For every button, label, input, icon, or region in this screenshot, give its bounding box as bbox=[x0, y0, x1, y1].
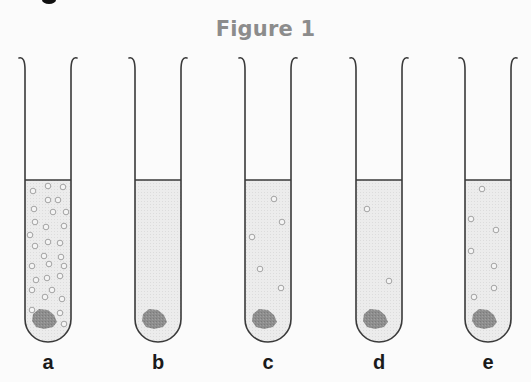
gas-bubble bbox=[57, 240, 63, 246]
gas-bubble bbox=[45, 183, 51, 189]
gas-bubble bbox=[27, 232, 33, 238]
gas-bubble bbox=[29, 287, 35, 293]
gas-bubble bbox=[61, 321, 67, 327]
gas-bubble bbox=[43, 224, 49, 230]
gas-bubble bbox=[491, 285, 497, 291]
gas-bubble bbox=[61, 263, 67, 269]
tube-label: b bbox=[152, 351, 164, 373]
gas-bubble bbox=[30, 188, 36, 194]
test-tube-b: b bbox=[129, 58, 187, 373]
gas-bubble bbox=[57, 273, 63, 279]
gas-bubble bbox=[278, 285, 284, 291]
gas-bubble bbox=[41, 253, 47, 259]
gas-bubble bbox=[57, 310, 63, 316]
gas-bubble bbox=[29, 307, 35, 313]
gas-bubble bbox=[32, 219, 38, 225]
gas-bubble bbox=[45, 239, 51, 245]
gas-bubble bbox=[257, 266, 263, 272]
gas-bubble bbox=[493, 227, 499, 233]
gas-bubble bbox=[364, 206, 370, 212]
gas-bubble bbox=[479, 186, 485, 192]
test-tube-e: e bbox=[459, 58, 517, 373]
gas-bubble bbox=[46, 261, 52, 267]
gas-bubble bbox=[55, 197, 61, 203]
gas-bubble bbox=[491, 263, 497, 269]
gas-bubble bbox=[271, 196, 277, 202]
gas-bubble bbox=[50, 209, 56, 215]
gas-bubble bbox=[468, 248, 474, 254]
gas-bubble bbox=[58, 254, 64, 260]
tube-label: d bbox=[373, 351, 385, 373]
gas-bubble bbox=[31, 206, 37, 212]
tube-label: a bbox=[42, 351, 54, 373]
gas-bubble bbox=[42, 294, 48, 300]
gas-bubble bbox=[468, 216, 474, 222]
gas-bubble bbox=[471, 294, 477, 300]
test-tube-figure: abcde bbox=[0, 0, 531, 382]
gas-bubble bbox=[29, 263, 35, 269]
gas-bubble bbox=[60, 184, 66, 190]
gas-bubble bbox=[45, 197, 51, 203]
gas-bubble bbox=[386, 278, 392, 284]
tube-label: c bbox=[262, 351, 273, 373]
gas-bubble bbox=[32, 243, 38, 249]
test-tube-a: a bbox=[19, 58, 77, 373]
gas-bubble bbox=[59, 296, 65, 302]
gas-bubble bbox=[63, 209, 69, 215]
gas-bubble bbox=[279, 219, 285, 225]
gas-bubble bbox=[33, 277, 39, 283]
gas-bubble bbox=[249, 234, 255, 240]
test-tube-c: c bbox=[239, 58, 297, 373]
gas-bubble bbox=[49, 287, 55, 293]
gas-bubble bbox=[44, 275, 50, 281]
gas-bubble bbox=[61, 223, 67, 229]
test-tube-d: d bbox=[350, 58, 408, 373]
tube-label: e bbox=[482, 351, 493, 373]
